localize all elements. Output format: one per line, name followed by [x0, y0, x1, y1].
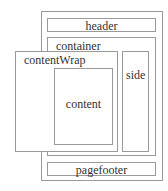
- side-label: side: [126, 69, 145, 81]
- content-box: content: [54, 68, 113, 145]
- content-label: content: [55, 98, 112, 110]
- content-wrap-box: contentWrap content: [15, 51, 118, 152]
- content-wrap-label: contentWrap: [24, 54, 86, 66]
- header-box: header: [47, 18, 156, 32]
- pagefooter-box: pagefooter: [47, 162, 156, 176]
- side-box: side: [122, 51, 149, 152]
- header-label: header: [48, 20, 155, 32]
- pagefooter-label: pagefooter: [48, 164, 155, 176]
